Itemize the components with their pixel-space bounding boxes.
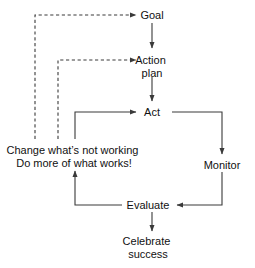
node-change-note-line-1: Change what’s not working xyxy=(7,144,139,156)
node-celebrate-success-line-1: Celebrate xyxy=(123,235,171,247)
node-monitor-line-1: Monitor xyxy=(204,159,241,171)
edge-change-to-action-plan xyxy=(58,60,136,139)
edge-change-to-act xyxy=(75,112,136,139)
node-goal: Goal xyxy=(140,9,163,21)
edge-change-to-goal xyxy=(35,15,136,139)
node-monitor: Monitor xyxy=(204,159,241,171)
node-change-note-line-2: Do more of what works! xyxy=(16,157,132,169)
flowchart-canvas: Goal Action plan Act Monitor Evaluate Ce… xyxy=(0,0,255,268)
node-action-plan-line-1: Action xyxy=(135,54,166,66)
node-evaluate-line-1: Evaluate xyxy=(127,199,170,211)
edge-act-to-monitor xyxy=(172,112,222,154)
node-evaluate: Evaluate xyxy=(127,199,170,211)
node-goal-line-1: Goal xyxy=(140,9,163,21)
node-change-note: Change what’s not working Do more of wha… xyxy=(7,144,142,169)
edge-monitor-to-evaluate xyxy=(177,172,222,205)
node-action-plan: Action plan xyxy=(135,54,169,79)
node-celebrate-success: Celebrate success xyxy=(123,235,174,260)
node-celebrate-success-line-2: success xyxy=(128,248,168,260)
flowchart-diagram: Goal Action plan Act Monitor Evaluate Ce… xyxy=(0,0,255,268)
node-act-line-1: Act xyxy=(144,106,160,118)
node-act: Act xyxy=(144,106,160,118)
edge-evaluate-to-change xyxy=(75,171,122,205)
node-action-plan-line-2: plan xyxy=(142,67,163,79)
